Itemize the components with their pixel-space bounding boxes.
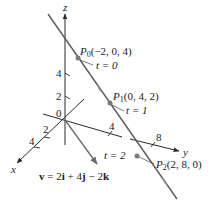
y-axis-label: y [182, 146, 188, 158]
z-tick-label-4: 4 [56, 67, 62, 79]
leader-p2 [139, 157, 154, 164]
p2-label: P2(2, 8, 0) [155, 158, 202, 172]
z-tick-4 [65, 73, 70, 76]
p0-label: P0(−2, 0, 4) [79, 45, 132, 59]
x-tick-label-2: 2 [43, 123, 49, 135]
t0-label: t = 0 [96, 59, 118, 71]
x-axis [17, 99, 84, 163]
x-tick-4 [34, 147, 40, 148]
y-tick-label-8: 8 [156, 131, 162, 143]
vector-equation-label: v = 2i + 4j − 2k [39, 170, 110, 182]
point-p2 [135, 154, 140, 159]
y-tick-label-4: 4 [109, 120, 115, 132]
x-axis-label: x [10, 163, 16, 175]
z-axis-label: z [62, 1, 68, 13]
direction-vector-v [65, 120, 97, 164]
t2-label: t = 2 [104, 149, 126, 161]
point-p1 [108, 101, 113, 106]
x-tick-label-4: 4 [29, 135, 35, 147]
p1-label: P1(0, 4, 2) [112, 90, 159, 104]
z-tick-2 [65, 96, 70, 99]
z-tick-label-2: 2 [56, 90, 62, 102]
x-tick-2 [44, 137, 50, 138]
t1-label: t = 1 [126, 104, 147, 116]
line-in-space-diagram: z y x 0 4 2 4 8 2 4 P0(−2, 0, 4) t = 0 P… [0, 0, 214, 209]
diagram-canvas: z y x 0 4 2 4 8 2 4 P0(−2, 0, 4) t = 0 P… [0, 0, 214, 209]
origin-label: 0 [56, 107, 62, 119]
